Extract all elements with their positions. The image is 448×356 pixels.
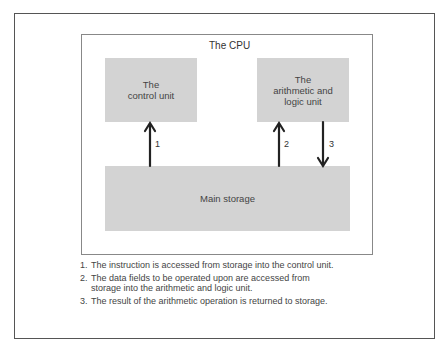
note-item: 2. The data fields to be operated upon a…	[80, 273, 340, 294]
arrow-label-3: 3	[329, 139, 334, 149]
note-item: 3. The result of the arithmetic operatio…	[80, 296, 340, 307]
arrow-down-icon	[318, 122, 328, 166]
arrow-label-1: 1	[155, 139, 160, 149]
arrow-up-icon	[145, 123, 155, 166]
notes-list: 1. The instruction is accessed from stor…	[80, 260, 340, 308]
arrow-label-2: 2	[284, 139, 289, 149]
arrow-up-icon	[274, 123, 284, 166]
note-item: 1. The instruction is accessed from stor…	[80, 260, 340, 271]
